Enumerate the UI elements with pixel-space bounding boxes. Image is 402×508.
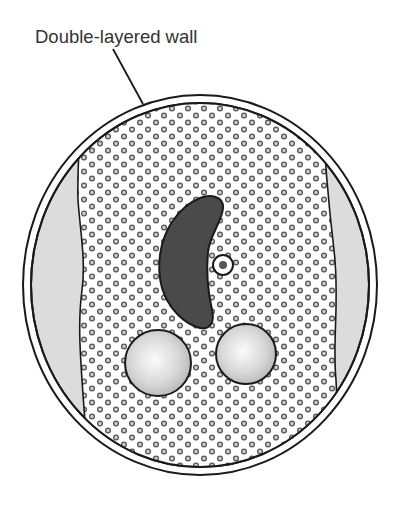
small-organelle-core — [219, 261, 227, 269]
wall-label: Double-layered wall — [35, 26, 197, 104]
sphere-left — [125, 330, 191, 396]
wall-label-text: Double-layered wall — [35, 26, 197, 47]
wall-leader-line — [113, 49, 143, 104]
small-organelle — [213, 255, 233, 275]
cell-diagram: Double-layered wall — [0, 0, 402, 508]
sphere-right — [216, 324, 276, 384]
